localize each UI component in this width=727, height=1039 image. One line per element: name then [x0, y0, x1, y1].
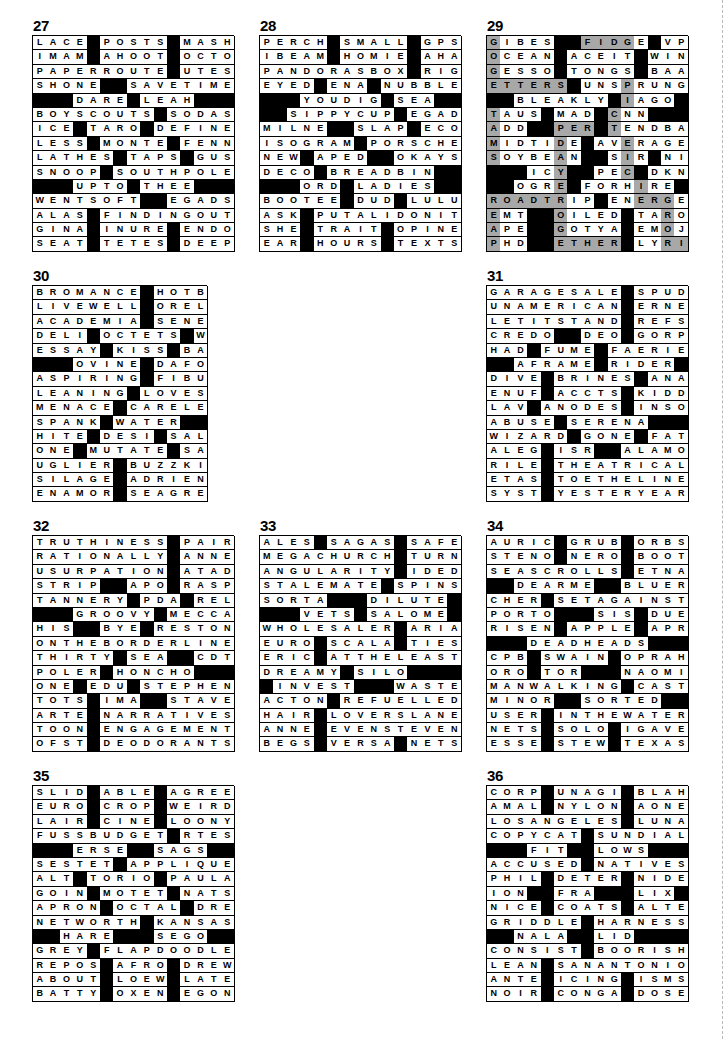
letter-cell: R: [661, 237, 675, 251]
letter-cell: E: [541, 151, 555, 165]
letter-cell: K: [87, 416, 101, 430]
letter-cell: N: [367, 723, 381, 737]
block-cell: [581, 137, 595, 151]
letter-cell: D: [447, 694, 461, 708]
letter-cell: S: [661, 594, 675, 608]
letter-cell: S: [354, 666, 368, 680]
letter-cell: H: [87, 536, 101, 550]
block-cell: [167, 579, 181, 593]
letter-cell: L: [60, 329, 74, 343]
letter-cell: K: [180, 459, 194, 473]
letter-cell: S: [394, 579, 408, 593]
letter-cell: S: [154, 237, 168, 251]
letter-cell: A: [194, 536, 208, 550]
letter-cell: E: [608, 166, 622, 180]
letter-cell: R: [87, 608, 101, 622]
letter-cell: U: [594, 536, 608, 550]
letter-cell: A: [140, 401, 154, 415]
letter-cell: R: [674, 622, 688, 636]
block-cell: [113, 79, 127, 93]
letter-cell: E: [60, 122, 74, 136]
puzzle-number: 28: [260, 18, 486, 33]
letter-cell: A: [381, 737, 395, 751]
letter-cell: I: [381, 50, 395, 64]
letter-cell: T: [354, 579, 368, 593]
letter-cell: E: [581, 459, 595, 473]
letter-cell: W: [648, 50, 662, 64]
letter-cell: A: [608, 858, 622, 872]
block-cell: [327, 694, 341, 708]
letter-cell: P: [140, 944, 154, 958]
letter-cell: F: [180, 358, 194, 372]
letter-cell: E: [527, 973, 541, 987]
letter-cell: N: [541, 50, 555, 64]
block-cell: [73, 122, 87, 136]
block-cell: [554, 416, 568, 430]
letter-cell: P: [87, 579, 101, 593]
letter-cell: M: [661, 444, 675, 458]
letter-cell: R: [541, 358, 555, 372]
letter-cell: E: [260, 237, 274, 251]
block-cell: [60, 358, 74, 372]
letter-cell: K: [154, 916, 168, 930]
block-cell: [167, 344, 181, 358]
letter-cell: T: [154, 680, 168, 694]
letter-cell: S: [661, 401, 675, 415]
letter-cell: N: [194, 473, 208, 487]
letter-cell: E: [314, 680, 328, 694]
letter-cell: R: [487, 459, 501, 473]
letter-cell: I: [554, 444, 568, 458]
block-cell: [220, 180, 234, 194]
block-cell: [541, 594, 555, 608]
letter-cell: V: [207, 694, 221, 708]
block-cell: [87, 223, 101, 237]
letter-cell: C: [154, 666, 168, 680]
letter-cell: E: [608, 286, 622, 300]
letter-cell: I: [287, 709, 301, 723]
block-cell: [167, 50, 181, 64]
answers-page: 27LACEPOSTSMASHIMAMAHOOTOCTOPAPERROUTEUT…: [0, 0, 727, 1039]
letter-cell: I: [60, 651, 74, 665]
letter-cell: L: [487, 959, 501, 973]
block-cell: [621, 329, 635, 343]
puzzle-35: 35SLIDABLEAGREEEUROCROPWEIRDLAIRCINELOON…: [32, 768, 259, 1018]
letter-cell: T: [394, 237, 408, 251]
letter-cell: S: [634, 637, 648, 651]
letter-cell: A: [167, 844, 181, 858]
block-cell: [634, 930, 648, 944]
letter-cell: S: [60, 829, 74, 843]
puzzle-number: 35: [33, 768, 259, 783]
letter-cell: O: [554, 666, 568, 680]
letter-cell: R: [287, 36, 301, 50]
puzzle-29: 29GIBESFIDGEVPOCEANACEITWINGESSOTONGSBAA…: [486, 18, 713, 268]
letter-cell: E: [207, 237, 221, 251]
letter-cell: U: [648, 579, 662, 593]
block-cell: [381, 237, 395, 251]
block-cell: [100, 959, 114, 973]
letter-cell: G: [127, 372, 141, 386]
letter-cell: O: [648, 550, 662, 564]
letter-cell: Y: [140, 608, 154, 622]
letter-cell: I: [273, 680, 287, 694]
letter-cell: A: [60, 487, 74, 501]
letter-cell: E: [567, 122, 581, 136]
letter-cell: S: [220, 108, 234, 122]
letter-cell: E: [634, 737, 648, 751]
letter-cell: R: [46, 709, 60, 723]
letter-cell: R: [180, 579, 194, 593]
letter-cell: O: [500, 194, 514, 208]
letter-cell: N: [46, 680, 60, 694]
letter-cell: O: [273, 194, 287, 208]
letter-cell: S: [581, 487, 595, 501]
letter-cell: T: [567, 237, 581, 251]
letter-cell: P: [180, 536, 194, 550]
letter-cell: A: [207, 108, 221, 122]
block-cell: [87, 786, 101, 800]
letter-cell: I: [421, 223, 435, 237]
letter-cell: E: [541, 637, 555, 651]
letter-cell: P: [381, 108, 395, 122]
letter-cell: I: [46, 223, 60, 237]
letter-cell: S: [73, 829, 87, 843]
letter-cell: S: [33, 473, 47, 487]
letter-cell: S: [207, 579, 221, 593]
